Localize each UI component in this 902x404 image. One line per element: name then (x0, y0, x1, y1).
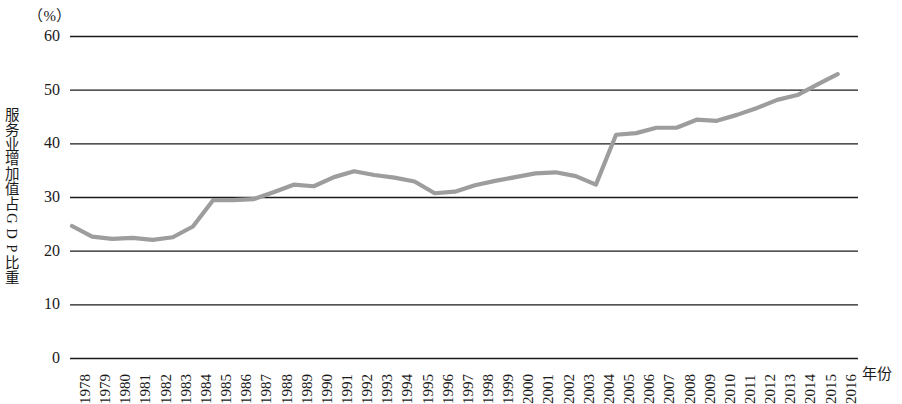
x-tick-label: 1997 (461, 358, 476, 404)
x-tick-label: 2002 (562, 358, 577, 404)
x-tick-label: 1983 (179, 358, 194, 404)
x-tick-label: 2013 (783, 358, 798, 404)
x-tick-label: 1999 (501, 358, 516, 404)
gridlines (70, 37, 858, 359)
x-tick-label: 1980 (118, 358, 133, 404)
data-series-line (72, 74, 838, 240)
x-tick-label: 2009 (703, 358, 718, 404)
y-axis-title-char: 务 (2, 123, 22, 138)
x-tick-label: 1982 (159, 358, 174, 404)
y-tick-label: 50 (26, 82, 60, 98)
y-axis-unit-label: （%） (28, 4, 72, 25)
x-tick-label: 1995 (421, 358, 436, 404)
x-tick-label: 1981 (138, 358, 153, 404)
x-tick-label: 1991 (340, 358, 355, 404)
x-tick-label: 1979 (98, 358, 113, 404)
x-tick-label: 1988 (280, 358, 295, 404)
x-axis-title: 年份 (862, 362, 892, 383)
x-tick-label: 1978 (78, 358, 93, 404)
x-tick-label: 2016 (844, 358, 859, 404)
y-tick-label: 40 (26, 135, 60, 151)
x-tick-label: 2006 (642, 358, 657, 404)
y-axis-title-char: 业 (2, 138, 22, 153)
y-axis-title-char: 服 (2, 108, 22, 123)
x-tick-label: 2003 (582, 358, 597, 404)
y-axis-title-char: 重 (2, 271, 22, 286)
x-tick-label: 2005 (622, 358, 637, 404)
plot-area (70, 36, 858, 358)
x-tick-label: 1987 (259, 358, 274, 404)
y-tick-label: 60 (26, 28, 60, 44)
x-tick-label: 2012 (763, 358, 778, 404)
y-axis-title-char: 加 (2, 167, 22, 182)
x-axis-tick-labels: 年份 1978197919801981198219831984198519861… (0, 358, 902, 402)
y-axis-title: 服务业增加值占GDP比重 (2, 108, 22, 285)
y-axis-title-char: 增 (2, 152, 22, 167)
x-tick-label: 1994 (400, 358, 415, 404)
x-tick-label: 1985 (219, 358, 234, 404)
x-tick-label: 1989 (300, 358, 315, 404)
y-axis-title-char: P (5, 238, 20, 258)
x-tick-label: 2011 (743, 358, 758, 404)
x-tick-label: 2000 (521, 358, 536, 404)
x-tick-label: 2008 (683, 358, 698, 404)
x-tick-label: 1998 (481, 358, 496, 404)
x-tick-label: 1986 (239, 358, 254, 404)
x-tick-label: 2001 (541, 358, 556, 404)
x-tick-label: 1996 (441, 358, 456, 404)
x-tick-label: 2014 (803, 358, 818, 404)
y-axis-title-char: 值 (2, 182, 22, 197)
x-tick-label: 1984 (199, 358, 214, 404)
x-tick-label: 2004 (602, 358, 617, 404)
x-tick-label: 2007 (662, 358, 677, 404)
x-tick-label: 2015 (824, 358, 839, 404)
y-tick-label: 10 (26, 296, 60, 312)
x-tick-label: 1993 (380, 358, 395, 404)
x-tick-label: 1992 (360, 358, 375, 404)
x-tick-label: 2010 (723, 358, 738, 404)
y-tick-label: 20 (26, 243, 60, 259)
x-tick-label: 1990 (320, 358, 335, 404)
y-tick-label: 30 (26, 189, 60, 205)
series-line (72, 74, 838, 240)
